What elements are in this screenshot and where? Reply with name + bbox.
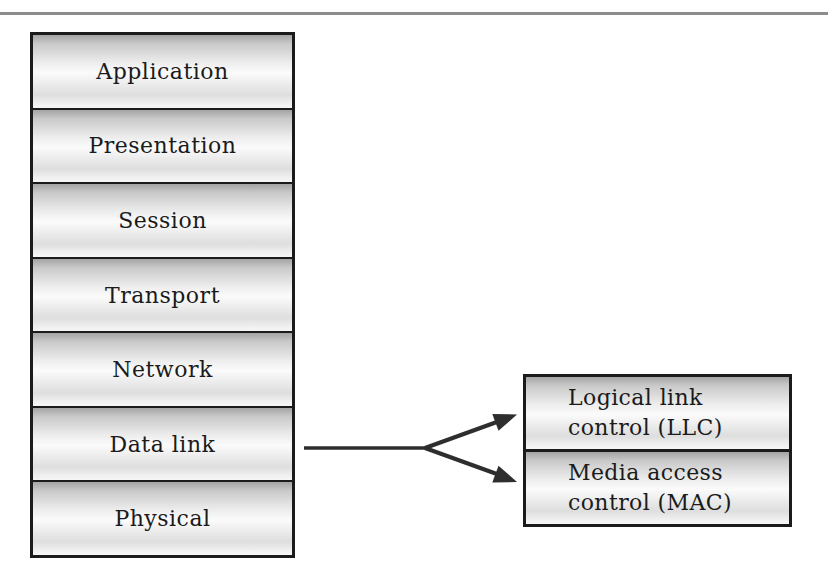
figure-canvas: Application Presentation Session Transpo… (0, 0, 828, 581)
osi-layer-data-link: Data link (33, 406, 292, 481)
arrow-shaft-lower (425, 448, 501, 476)
osi-layer-label-transport: Transport (105, 283, 220, 308)
fork-arrow-shafts (304, 421, 501, 476)
osi-layer-label-presentation: Presentation (88, 133, 236, 158)
sublayer-mac-line1: Media access (568, 458, 789, 488)
osi-layer-label-network: Network (112, 357, 213, 382)
top-rule (0, 12, 828, 15)
osi-layer-physical: Physical (33, 480, 292, 555)
osi-layer-session: Session (33, 182, 292, 257)
osi-layer-label-physical: Physical (114, 506, 210, 531)
osi-layer-transport: Transport (33, 257, 292, 332)
osi-layer-application: Application (33, 35, 292, 108)
sublayer-mac: Media access control (MAC) (526, 449, 789, 524)
sublayer-llc-line2: control (LLC) (568, 413, 789, 443)
arrow-shaft-upper (425, 421, 501, 449)
sublayer-llc-line1: Logical link (568, 383, 789, 413)
osi-layer-label-data-link: Data link (110, 432, 216, 457)
osi-stack: Application Presentation Session Transpo… (30, 32, 295, 558)
sublayer-llc: Logical link control (LLC) (526, 377, 789, 449)
arrowhead-lower-icon (492, 466, 517, 483)
osi-layer-network: Network (33, 331, 292, 406)
osi-layer-label-session: Session (118, 208, 207, 233)
fork-arrow-heads (492, 414, 517, 483)
osi-layer-label-application: Application (96, 59, 228, 84)
osi-layer-presentation: Presentation (33, 108, 292, 183)
sublayer-mac-line2: control (MAC) (568, 488, 789, 518)
arrowhead-upper-icon (492, 414, 517, 431)
sublayer-box: Logical link control (LLC) Media access … (523, 374, 792, 527)
